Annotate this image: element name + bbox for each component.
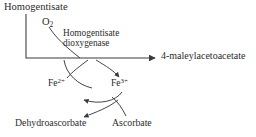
ascorbate-input-arc <box>112 97 126 116</box>
iron-oxidized-charge: 3+ <box>121 77 128 84</box>
iron-reduced-symbol: Fe <box>48 77 58 88</box>
ascorbate-label: Ascorbate <box>112 118 152 129</box>
cosubstrate-symbol: O <box>42 16 50 27</box>
product-label: 4-maleylacetoacetate <box>161 51 245 62</box>
iron-oxidized-symbol: Fe <box>111 77 121 88</box>
iron-oxidized-label: Fe3+ <box>111 77 128 88</box>
fe-oxidation-arc <box>64 60 92 88</box>
iron-cycle-arc-upper-right <box>96 60 119 77</box>
cosubstrate-subscript: 2 <box>50 20 54 29</box>
iron-reduced-charge: 2+ <box>58 77 65 84</box>
enzyme-label-line1: Homogentisate <box>63 28 119 38</box>
substrate-label: Homogentisate <box>4 1 68 12</box>
iron-cycle-arc-upper-left <box>67 60 88 78</box>
enzyme-label: Homogentisate dioxygenase <box>63 28 119 48</box>
iron-reduced-label: Fe2+ <box>48 77 65 88</box>
cosubstrate-label: O2 <box>42 16 53 29</box>
enzyme-label-line2: dioxygenase <box>63 38 119 48</box>
reaction-diagram: Homogentisate O2 Homogentisate dioxygena… <box>0 0 256 137</box>
dehydroascorbate-label: Dehydroascorbate <box>15 118 86 129</box>
